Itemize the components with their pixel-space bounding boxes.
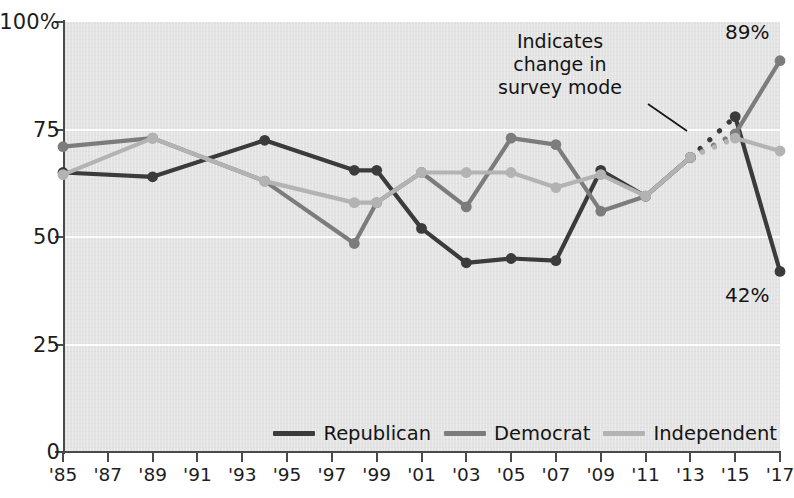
x-tick-label-1987: '87 — [93, 464, 122, 485]
x-tick-label-1995: '95 — [273, 464, 302, 485]
democrat-end-value-label: 89% — [725, 20, 769, 44]
legend-swatch-independent — [603, 431, 645, 436]
y-tick-label-25: 25 — [33, 333, 60, 357]
x-tick-2005 — [510, 452, 512, 462]
annotation-line-3: survey mode — [498, 76, 622, 99]
x-tick-1995 — [286, 452, 288, 462]
x-tick-2009 — [600, 452, 602, 462]
x-tick-label-2003: '03 — [452, 464, 481, 485]
x-tick-1987 — [107, 452, 109, 462]
x-tick-2003 — [465, 452, 467, 462]
x-tick-label-2017: '17 — [766, 464, 794, 485]
x-tick-label-2013: '13 — [676, 464, 705, 485]
legend-item-republican[interactable]: Republican — [273, 422, 431, 445]
x-tick-2017 — [779, 452, 781, 462]
legend-label-independent: Independent — [653, 422, 777, 445]
y-tick-label-75: 75 — [33, 118, 60, 142]
x-tick-1997 — [331, 452, 333, 462]
x-tick-label-2001: '01 — [407, 464, 436, 485]
x-tick-label-2005: '05 — [497, 464, 526, 485]
annotation-line-2: change in — [498, 53, 622, 76]
gridline-50 — [63, 236, 780, 238]
x-tick-1985 — [62, 452, 64, 462]
legend-label-democrat: Democrat — [494, 422, 590, 445]
x-tick-label-2007: '07 — [542, 464, 571, 485]
legend-swatch-democrat — [444, 431, 486, 436]
legend-label-republican: Republican — [323, 422, 431, 445]
x-tick-label-2011: '11 — [631, 464, 660, 485]
x-tick-2011 — [645, 452, 647, 462]
x-tick-label-1985: '85 — [49, 464, 78, 485]
legend-item-democrat[interactable]: Democrat — [444, 422, 590, 445]
republican-end-value-label: 42% — [725, 283, 769, 307]
x-tick-2013 — [689, 452, 691, 462]
legend-swatch-republican — [273, 431, 315, 436]
x-tick-1999 — [376, 452, 378, 462]
gridline-25 — [63, 344, 780, 346]
x-tick-label-2009: '09 — [586, 464, 615, 485]
x-tick-1993 — [241, 452, 243, 462]
x-tick-2015 — [734, 452, 736, 462]
x-tick-1991 — [196, 452, 198, 462]
x-tick-1989 — [152, 452, 154, 462]
x-tick-2001 — [421, 452, 423, 462]
legend-item-independent[interactable]: Independent — [603, 422, 777, 445]
annotation-line-1: Indicates — [498, 30, 622, 53]
x-tick-label-1991: '91 — [183, 464, 212, 485]
x-tick-label-1993: '93 — [228, 464, 257, 485]
x-tick-label-1989: '89 — [138, 464, 167, 485]
x-tick-label-1999: '99 — [362, 464, 391, 485]
gridline-75 — [63, 129, 780, 131]
x-tick-2007 — [555, 452, 557, 462]
y-tick-label-100: 100% — [0, 10, 60, 34]
x-tick-label-1997: '97 — [318, 464, 347, 485]
y-tick-label-50: 50 — [33, 225, 60, 249]
survey-mode-annotation: Indicates change in survey mode — [498, 30, 622, 100]
legend: Republican Democrat Independent — [0, 420, 789, 446]
x-tick-label-2015: '15 — [721, 464, 750, 485]
